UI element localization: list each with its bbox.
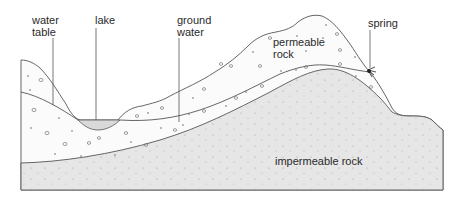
spring-label: spring xyxy=(368,17,398,29)
water-table-label: water table xyxy=(32,14,59,38)
permeable-rock-label: permeable rock xyxy=(273,36,325,60)
impermeable-rock-label: impermeable rock xyxy=(275,155,362,167)
lake-label: lake xyxy=(95,14,115,26)
cross-section-diagram xyxy=(0,0,462,204)
ground-water-label: ground water xyxy=(177,14,211,38)
